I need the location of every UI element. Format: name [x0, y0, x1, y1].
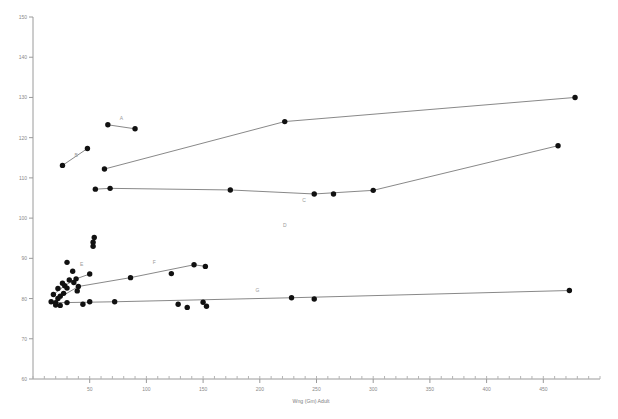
y-tick-label: 140 [19, 54, 28, 60]
series-label-g: G [256, 287, 260, 293]
y-tick-label: 110 [19, 175, 27, 181]
data-point [70, 269, 75, 274]
x-axis-tick-labels: 50100150200250300350400450 [87, 386, 548, 392]
data-point [203, 264, 208, 269]
data-point [282, 119, 287, 124]
data-point [64, 285, 69, 290]
x-tick-label: 50 [87, 386, 93, 392]
y-tick-label: 120 [19, 135, 28, 141]
y-tick-label: 90 [21, 255, 27, 261]
axes [33, 17, 600, 379]
x-tick-label: 300 [369, 386, 378, 392]
data-point [51, 292, 56, 297]
data-point [289, 295, 294, 300]
data-point [312, 191, 317, 196]
y-tick-label: 60 [21, 376, 27, 382]
data-point [572, 95, 577, 100]
series-label-d: D [283, 222, 287, 228]
data-point [204, 303, 209, 308]
data-point [191, 262, 196, 267]
data-point [312, 296, 317, 301]
x-tick-label: 200 [256, 386, 265, 392]
data-point [112, 299, 117, 304]
data-point [567, 288, 572, 293]
series-line-a [108, 125, 135, 129]
x-tick-label: 400 [482, 386, 491, 392]
data-point [87, 299, 92, 304]
data-point [90, 244, 95, 249]
x-tick-label: 100 [142, 386, 151, 392]
series-line-f [58, 265, 205, 299]
data-point [64, 260, 69, 265]
data-point [60, 163, 65, 168]
x-tick-label: 350 [426, 386, 435, 392]
data-point [64, 300, 69, 305]
data-point [67, 277, 72, 282]
series-label-a: A [120, 115, 124, 121]
data-point [107, 186, 112, 191]
data-point [185, 305, 190, 310]
data-point [228, 187, 233, 192]
scatter-plot-figure: 60708090100110120130140150 5010015020025… [0, 0, 618, 419]
y-tick-label: 130 [19, 94, 28, 100]
data-point [555, 143, 560, 148]
series-label-c: C [302, 197, 306, 203]
data-point [92, 235, 97, 240]
data-point [80, 301, 85, 306]
series-line-e [53, 274, 89, 295]
data-point [87, 271, 92, 276]
data-point [93, 186, 98, 191]
data-point [132, 126, 137, 131]
series-label-e: E [80, 261, 84, 267]
x-tick-label: 150 [199, 386, 208, 392]
x-tick-label: 450 [539, 386, 548, 392]
y-axis-tick-labels: 60708090100110120130140150 [19, 14, 28, 382]
y-tick-label: 100 [19, 215, 28, 221]
data-point [175, 301, 180, 306]
data-point [371, 188, 376, 193]
data-point [102, 166, 107, 171]
x-axis-title: Wng (Gm) Adult [293, 398, 330, 404]
series-label-f: F [153, 259, 156, 265]
y-tick-label: 80 [21, 296, 27, 302]
data-point [169, 271, 174, 276]
data-point [105, 122, 110, 127]
data-point [60, 281, 65, 286]
y-tick-label: 70 [21, 336, 27, 342]
plot-canvas: 60708090100110120130140150 5010015020025… [0, 0, 618, 419]
data-point [85, 146, 90, 151]
x-tick-label: 250 [312, 386, 321, 392]
data-point [58, 303, 63, 308]
data-point [75, 288, 80, 293]
data-point [128, 275, 133, 280]
axis-ticks [29, 17, 600, 383]
series-lines [53, 97, 575, 302]
y-tick-label: 150 [19, 14, 28, 20]
data-point [48, 299, 53, 304]
series-labels: ABCDEFG [74, 115, 306, 294]
data-point [331, 191, 336, 196]
data-points [48, 95, 577, 310]
data-point [55, 286, 60, 291]
data-point [58, 293, 63, 298]
